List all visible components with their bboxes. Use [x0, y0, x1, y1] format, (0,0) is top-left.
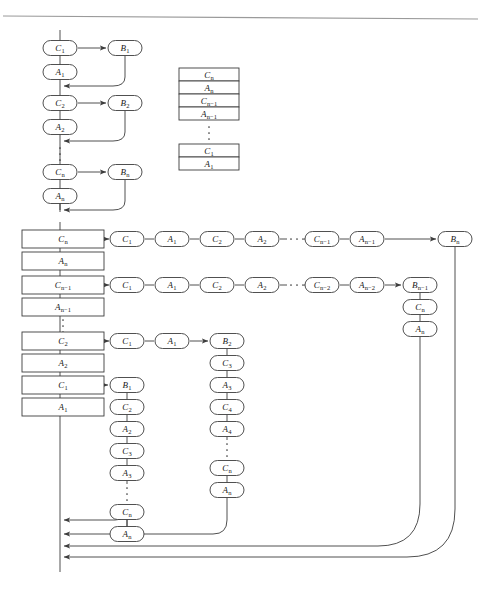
- row2-ellipsis-dot: [296, 284, 298, 286]
- row3-col-ellipsis-dot: [226, 449, 228, 451]
- diagram-canvas: C1B1A1C2B2A2CnBnAnCnAnCn−1An−1C1A1CnAnCn…: [0, 0, 493, 594]
- top-ellipsis-dot: [59, 159, 61, 161]
- top-ellipsis-dot: [59, 153, 61, 155]
- row1-ellipsis-dot: [302, 238, 304, 240]
- header-rule: [3, 16, 478, 19]
- left-stack-ellipsis-dot: [62, 325, 64, 327]
- row2-ellipsis-dot: [302, 284, 304, 286]
- nodes-layer: C1B1A1C2B2A2CnBnAnCnAnCn−1An−1C1A1CnAnCn…: [22, 41, 472, 542]
- row4-col-ellipsis-dot: [126, 487, 128, 489]
- stack-ellipsis-dot: [208, 132, 210, 134]
- figure-svg: C1B1A1C2B2A2CnBnAnCnAnCn−1An−1C1A1CnAnCn…: [0, 0, 493, 594]
- row1-ellipsis-dot: [290, 238, 292, 240]
- row3-col-ellipsis-dot: [226, 443, 228, 445]
- return-arrow-2: [64, 498, 227, 535]
- row2-ellipsis-dot: [290, 284, 292, 286]
- header-rule-layer: [3, 16, 478, 19]
- edges-layer: [59, 30, 455, 572]
- row3-col-ellipsis-dot: [226, 455, 228, 457]
- row1-ellipsis-dot: [296, 238, 298, 240]
- left-stack-ellipsis-dot: [62, 319, 64, 321]
- stack-ellipsis-dot: [208, 126, 210, 128]
- stack-ellipsis-dot: [208, 138, 210, 140]
- top-ellipsis-dot: [59, 147, 61, 149]
- row4-col-ellipsis-dot: [126, 499, 128, 501]
- row4-col-ellipsis-dot: [126, 493, 128, 495]
